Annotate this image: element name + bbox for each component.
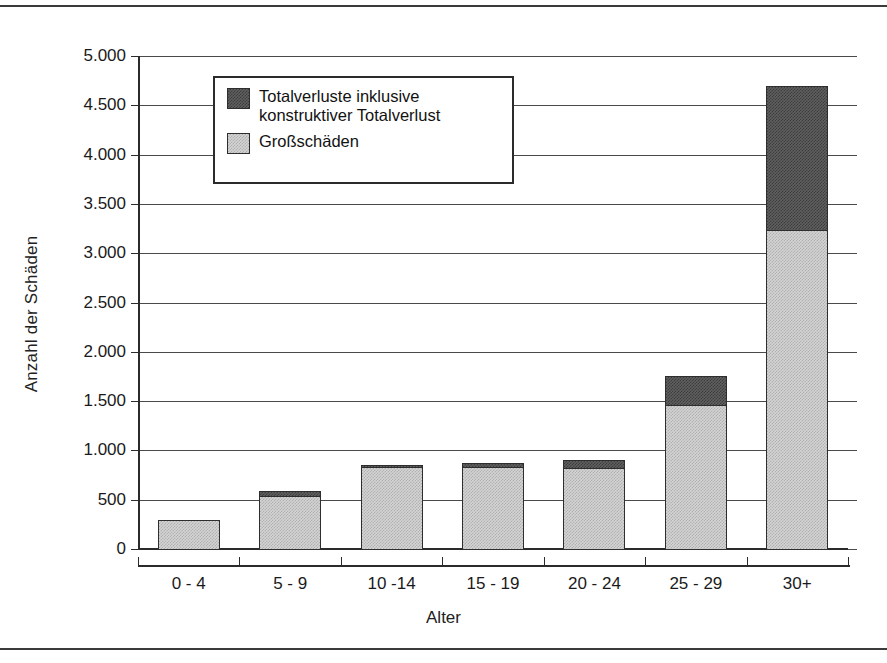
x-axis-tick	[544, 557, 545, 567]
y-axis-tick-right	[848, 155, 857, 156]
bar-stack[interactable]	[462, 463, 524, 549]
y-axis-tick-right	[848, 549, 857, 550]
bar-segment-grossschaeden[interactable]	[361, 467, 423, 550]
y-axis-tick-label: 0	[117, 539, 126, 559]
legend-label-grossschaeden: Großschäden	[259, 132, 359, 151]
bar-slot	[645, 56, 746, 549]
legend-item-grossschaeden: Großschäden	[227, 132, 502, 154]
y-axis-tick-right	[848, 401, 857, 402]
x-axis-tick	[848, 557, 849, 567]
bar-stack[interactable]	[259, 491, 321, 549]
x-axis-tick-label: 20 - 24	[568, 574, 621, 594]
legend-item-totalverluste: Totalverluste inklusive konstruktiver To…	[227, 87, 502, 125]
x-axis-line	[138, 565, 850, 567]
y-axis-tick-label: 2.500	[83, 293, 126, 313]
bar-segment-totalverluste[interactable]	[766, 86, 828, 231]
y-axis-tick	[131, 549, 140, 550]
bar-segment-grossschaeden[interactable]	[158, 520, 220, 550]
y-axis-tick-right	[848, 352, 857, 353]
bar-segment-grossschaeden[interactable]	[665, 405, 727, 550]
x-axis-tick-label: 10 -14	[367, 574, 415, 594]
x-axis-tick	[442, 557, 443, 567]
y-axis-tick-label: 5.000	[83, 46, 126, 66]
y-axis-tick-label: 500	[98, 490, 126, 510]
y-axis-tick-label: 4.500	[83, 95, 126, 115]
y-axis-title: Anzahl der Schäden	[22, 0, 46, 184]
x-axis-tick-label: 0 - 4	[172, 574, 206, 594]
y-axis-tick-label: 3.500	[83, 194, 126, 214]
page-rule-bottom	[0, 648, 887, 650]
bar-segment-grossschaeden[interactable]	[259, 496, 321, 550]
bar-segment-grossschaeden[interactable]	[462, 467, 524, 550]
x-axis-tick-label: 15 - 19	[467, 574, 520, 594]
chart-legend: Totalverluste inklusive konstruktiver To…	[213, 76, 514, 184]
bar-segment-totalverluste[interactable]	[665, 376, 727, 406]
bar-stack[interactable]	[361, 465, 423, 549]
x-axis-tick	[239, 557, 240, 567]
y-axis-tick-right	[848, 500, 857, 501]
x-axis-title: Alter	[0, 608, 887, 628]
y-axis-tick-right	[848, 303, 857, 304]
y-axis-tick-label: 3.000	[83, 243, 126, 263]
bar-stack[interactable]	[158, 520, 220, 549]
x-axis-tick	[138, 557, 139, 567]
bar-segment-grossschaeden[interactable]	[563, 468, 625, 550]
x-axis-tick-label: 25 - 29	[669, 574, 722, 594]
y-axis-tick-right	[848, 105, 857, 106]
bar-stack[interactable]	[766, 86, 828, 549]
bar-segment-grossschaeden[interactable]	[766, 230, 828, 550]
legend-swatch-dark-icon	[227, 88, 250, 109]
x-axis-tick	[747, 557, 748, 567]
legend-label-totalverluste: Totalverluste inklusive konstruktiver To…	[259, 87, 440, 125]
y-axis-tick-right	[848, 253, 857, 254]
y-axis-tick-label: 1.000	[83, 440, 126, 460]
y-axis-tick-label: 1.500	[83, 391, 126, 411]
y-axis-tick-label: 2.000	[83, 342, 126, 362]
page-rule-top	[0, 5, 887, 7]
y-axis-tick-right	[848, 450, 857, 451]
bar-slot	[544, 56, 645, 549]
legend-swatch-light-icon	[227, 133, 250, 154]
y-axis-title-label: Anzahl der Schäden	[22, 184, 42, 444]
y-axis-tick-right	[848, 204, 857, 205]
x-axis-tick	[341, 557, 342, 567]
y-axis-tick-label: 4.000	[83, 145, 126, 165]
x-axis-tick-label: 5 - 9	[273, 574, 307, 594]
bar-stack[interactable]	[665, 376, 727, 549]
x-axis-tick-label: 30+	[783, 574, 812, 594]
chart-figure: Anzahl der Schäden 05001.0001.5002.0002.…	[0, 8, 887, 646]
bar-stack[interactable]	[563, 460, 625, 549]
y-axis-tick-right	[848, 56, 857, 57]
x-axis-tick	[645, 557, 646, 567]
bar-slot	[747, 56, 848, 549]
